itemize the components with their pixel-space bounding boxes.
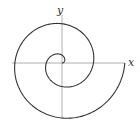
spiral-diagram: x y [0, 0, 140, 127]
y-axis-label: y [56, 4, 64, 17]
x-axis-label: x [128, 56, 135, 69]
spiral-curve [15, 23, 125, 118]
